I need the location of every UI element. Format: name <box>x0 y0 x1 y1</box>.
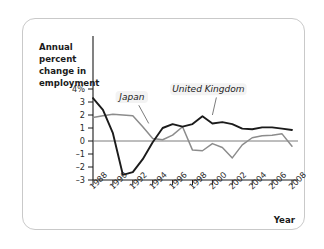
y-axis-title-line-2: percent <box>39 54 76 64</box>
y-axis-title-line-3: change in <box>39 66 86 76</box>
series-label-united-kingdom: United Kingdom <box>172 84 244 94</box>
series-label-japan: Japan <box>117 92 144 102</box>
annotation-leader-line <box>139 105 149 123</box>
y-tick-label: –1 <box>76 149 85 159</box>
y-axis-ticks: 4%3210–1–2–3 <box>72 84 93 185</box>
y-axis-title-line-4: employment <box>39 78 99 88</box>
y-tick-label: 3 <box>80 97 85 107</box>
y-axis-title-line-1: Annual <box>39 42 73 52</box>
y-tick-label: 4% <box>72 84 85 94</box>
series-line-japan <box>93 114 292 158</box>
y-tick-label: 2 <box>80 110 85 120</box>
line-chart: Annual percent change in employment 4%32… <box>23 19 306 231</box>
y-axis-title: Annual percent change in employment <box>39 42 99 88</box>
x-axis-title: Year <box>273 215 296 225</box>
y-tick-label: –3 <box>76 175 85 185</box>
y-tick-label: –2 <box>76 162 85 172</box>
y-tick-label: 1 <box>80 123 85 133</box>
chart-figure: Annual percent change in employment 4%32… <box>22 18 305 230</box>
y-tick-label: 0 <box>80 136 85 146</box>
series-lines <box>93 98 292 175</box>
annotation-leader-line <box>212 97 216 115</box>
